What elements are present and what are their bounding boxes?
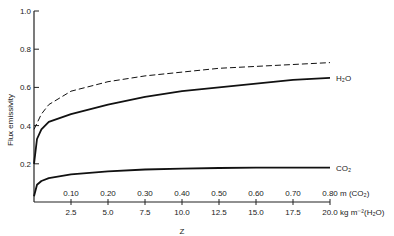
- x-tick-label-h2o: 10.0: [174, 208, 190, 217]
- x-tick-label-h2o: 7.5: [139, 208, 151, 217]
- y-axis-title: Flux emissivity: [6, 94, 15, 146]
- series-line: [34, 78, 330, 164]
- x-tick-label-h2o: 5.0: [102, 208, 114, 217]
- x-axis-unit-co2: m (CO₂): [340, 189, 370, 198]
- series-label: CO₂: [336, 164, 351, 173]
- x-tick-label-h2o: 20.0: [322, 208, 338, 217]
- x-tick-label-h2o: 2.5: [65, 208, 77, 217]
- y-tick-label: 0.2: [20, 160, 32, 169]
- x-tick-label-co2: 0.80: [322, 189, 338, 198]
- x-axis-unit-h2o: kg m⁻²(H₂O): [340, 208, 385, 217]
- x-tick-label-co2: 0.70: [285, 189, 301, 198]
- y-tick-label: 0.8: [20, 45, 32, 54]
- y-tick-label: 0.4: [20, 122, 32, 131]
- axes: 0.20.40.60.81.02.50.105.00.207.50.3010.0…: [20, 7, 338, 217]
- x-tick-label-co2: 0.60: [248, 189, 264, 198]
- x-tick-label-co2: 0.50: [211, 189, 227, 198]
- y-tick-label: 0.6: [20, 83, 32, 92]
- series-group: [34, 63, 330, 197]
- series-line: [34, 63, 330, 130]
- flux-emissivity-chart: 0.20.40.60.81.02.50.105.00.207.50.3010.0…: [0, 0, 394, 236]
- x-tick-label-co2: 0.30: [137, 189, 153, 198]
- series-label: H₂O: [336, 74, 351, 83]
- x-tick-label-h2o: 15.0: [248, 208, 264, 217]
- x-tick-label-co2: 0.10: [63, 189, 79, 198]
- x-tick-label-co2: 0.40: [174, 189, 190, 198]
- x-tick-label-co2: 0.20: [100, 189, 116, 198]
- x-axis-title: Z: [180, 227, 185, 236]
- x-tick-label-h2o: 17.5: [285, 208, 301, 217]
- y-tick-label: 1.0: [20, 7, 32, 16]
- x-tick-label-h2o: 12.5: [211, 208, 227, 217]
